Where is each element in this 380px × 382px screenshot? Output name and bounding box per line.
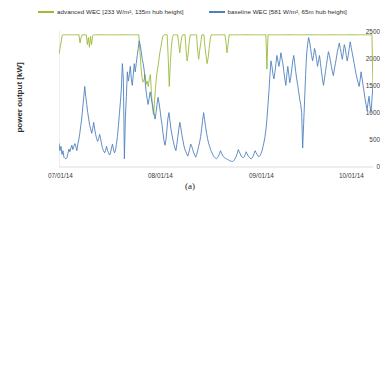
figure-a-legend: advanced WEC [233 W/m², 135m hub height]… bbox=[38, 8, 347, 15]
legend-baseline-wec: baseline WEC [581 W/m², 65m hub height] bbox=[209, 8, 347, 15]
legend-baseline-wec-label: baseline WEC [581 W/m², 65m hub height] bbox=[228, 8, 347, 15]
figure-a-plot-area bbox=[59, 31, 373, 168]
series-line-advanced-wec bbox=[59, 35, 373, 115]
legend-line-swatch-advanced bbox=[38, 11, 54, 13]
series-line-baseline-wec bbox=[59, 38, 373, 162]
figure-a-timeseries: advanced WEC [233 W/m², 135m hub height]… bbox=[0, 0, 380, 196]
figure-a-xtick-0: 07/01/14 bbox=[48, 172, 73, 179]
figure-a-xtick-2: 09/01/14 bbox=[249, 172, 274, 179]
legend-advanced-wec: advanced WEC [233 W/m², 135m hub height] bbox=[38, 8, 184, 15]
legend-line-swatch-baseline bbox=[209, 11, 225, 13]
figure-a-xtick-3: 10/01/14 bbox=[339, 172, 364, 179]
figure-a-y-axis-title: power output [kW] bbox=[15, 38, 24, 158]
figure-a-caption: (a) bbox=[0, 181, 380, 191]
figure-a-xtick-1: 08/01/14 bbox=[148, 172, 173, 179]
legend-advanced-wec-label: advanced WEC [233 W/m², 135m hub height] bbox=[57, 8, 184, 15]
